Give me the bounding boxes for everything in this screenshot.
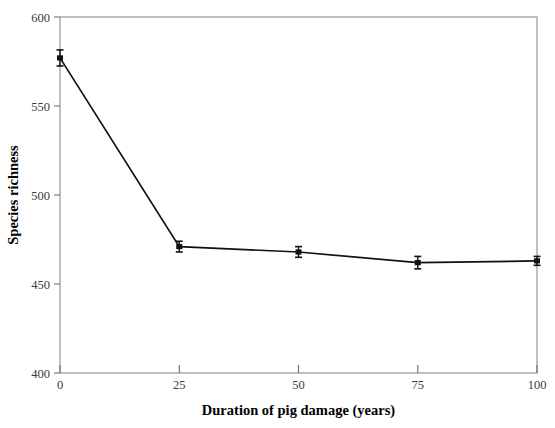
species-richness-line-chart: 600 550 500 450 400 0 25 50 75 100 Durat… — [0, 0, 555, 428]
plot-frame — [60, 17, 537, 373]
plot-border — [60, 17, 537, 373]
x-tick-label-25: 25 — [173, 378, 186, 392]
data-point — [414, 256, 421, 268]
data-point-marker — [415, 260, 421, 265]
data-point — [534, 256, 541, 265]
chart-page: 600 550 500 450 400 0 25 50 75 100 Durat… — [0, 0, 555, 428]
y-tick-label-450: 450 — [31, 278, 50, 292]
data-point-marker — [296, 249, 302, 254]
y-axis-tick-labels: 600 550 500 450 400 — [31, 11, 50, 381]
x-axis-tick-labels: 0 25 50 75 100 — [57, 378, 547, 392]
x-axis-ticks — [60, 365, 537, 373]
data-points-group — [57, 50, 541, 269]
data-point — [295, 247, 302, 258]
data-series-line — [60, 58, 537, 263]
data-point — [57, 50, 64, 66]
x-tick-label-50: 50 — [292, 378, 305, 392]
x-axis-title: Duration of pig damage (years) — [202, 402, 395, 419]
x-tick-label-75: 75 — [412, 378, 425, 392]
x-tick-label-0: 0 — [57, 378, 63, 392]
y-axis-ticks — [54, 17, 60, 373]
data-point-marker — [176, 244, 182, 249]
y-tick-label-550: 550 — [31, 100, 50, 114]
y-axis-title: Species richness — [5, 145, 21, 245]
x-tick-label-100: 100 — [528, 378, 547, 392]
y-tick-label-400: 400 — [31, 367, 50, 381]
y-tick-label-600: 600 — [31, 11, 50, 25]
y-tick-label-500: 500 — [31, 189, 50, 203]
data-point-marker — [534, 258, 540, 263]
data-point-marker — [57, 55, 63, 60]
